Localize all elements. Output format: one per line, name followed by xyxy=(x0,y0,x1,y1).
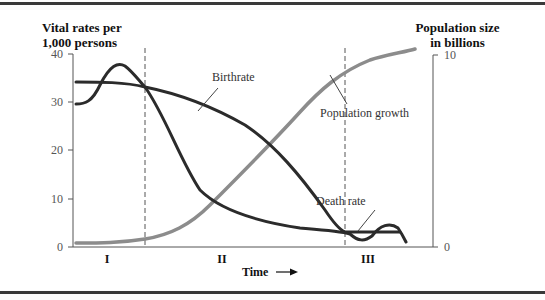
population-growth-annotation: Population growth xyxy=(320,106,409,120)
birthrate-annotation: Birthrate xyxy=(212,70,255,84)
tick-label-10: 10 xyxy=(51,192,63,206)
stage-label-3: III xyxy=(361,252,375,266)
tick-label-30: 30 xyxy=(51,95,63,109)
tick-label-0: 0 xyxy=(57,240,63,254)
tick-label-40: 40 xyxy=(51,47,63,61)
death-rate-leader xyxy=(358,210,375,231)
right-ticks: 10 0 xyxy=(433,48,456,254)
x-axis-label: Time xyxy=(242,265,269,279)
stage-label-1: I xyxy=(105,252,110,266)
bottom-rule xyxy=(0,291,545,294)
right-tick-label-10: 10 xyxy=(444,48,456,62)
chart-canvas: 40 30 20 10 0 10 0 Birthrate Population … xyxy=(0,0,545,300)
birthrate-line xyxy=(76,82,400,232)
tick-label-20: 20 xyxy=(51,143,63,157)
population-growth-leader xyxy=(330,75,347,104)
death-rate-line xyxy=(76,64,406,242)
right-tick-label-0: 0 xyxy=(444,240,450,254)
death-rate-annotation: Death rate xyxy=(316,194,366,208)
left-ticks: 40 30 20 10 0 xyxy=(51,47,73,254)
time-arrow-icon xyxy=(276,269,298,276)
stage-label-2: II xyxy=(217,252,227,266)
